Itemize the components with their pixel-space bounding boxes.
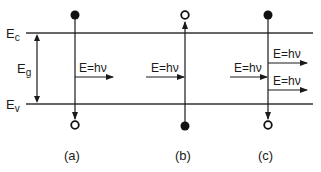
- panel-caption: (b): [175, 148, 191, 163]
- conduction-band-label: Ec: [6, 26, 20, 43]
- hole-icon: [264, 121, 272, 129]
- band-gap-label: Eg: [17, 61, 31, 78]
- hole-icon: [71, 121, 79, 129]
- electron-icon: [71, 11, 80, 20]
- panel-caption: (a): [64, 148, 80, 163]
- photon-label: E=hν: [273, 74, 301, 88]
- band-diagram: Ec Ev Eg E=hν (a) E=hν (b) E=hν E=hν E=h: [0, 0, 321, 172]
- panel-caption: (c): [258, 148, 273, 163]
- electron-icon: [264, 11, 273, 20]
- photon-label: E=hν: [151, 61, 179, 75]
- photon-label: E=hν: [234, 61, 262, 75]
- photon-label: E=hν: [79, 61, 107, 75]
- band-gap-arrow: [34, 34, 40, 103]
- valence-band-label: Ev: [6, 97, 20, 114]
- photon-label: E=hν: [273, 47, 301, 61]
- panel-b: E=hν (b): [146, 11, 191, 163]
- electron-icon: [181, 122, 190, 131]
- hole-icon: [181, 11, 189, 19]
